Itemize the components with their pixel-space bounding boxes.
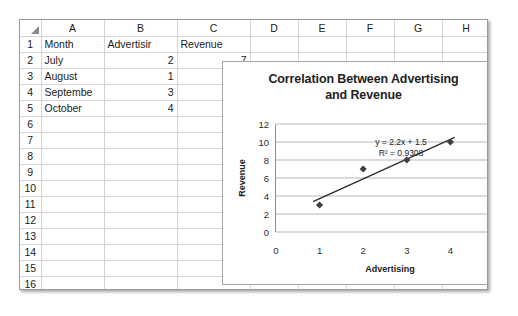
cell-a1[interactable]: Month (41, 36, 104, 52)
cell-b3[interactable]: 1 (104, 68, 177, 84)
cell-b16[interactable] (104, 276, 177, 290)
column-header-g[interactable]: G (394, 20, 442, 36)
cell-b15[interactable] (104, 260, 177, 276)
column-header-e[interactable]: E (298, 20, 346, 36)
row-header-13[interactable]: 13 (20, 228, 41, 244)
cell-b10[interactable] (104, 180, 177, 196)
row-header-5[interactable]: 5 (20, 100, 41, 116)
trendline-r-squared-label: R² = 0.9308 (379, 148, 424, 158)
y-tick-label: 2 (264, 209, 269, 220)
y-tick-label: 6 (264, 173, 269, 184)
row-header-15[interactable]: 15 (20, 260, 41, 276)
cell-b11[interactable] (104, 196, 177, 212)
cell-a5[interactable]: October (41, 100, 104, 116)
trendline-equation-label: y = 2.2x + 1.5 (375, 137, 427, 147)
select-all-corner[interactable] (20, 20, 41, 36)
y-tick-label: 8 (264, 155, 269, 166)
y-tick-label: 4 (264, 191, 269, 202)
x-tick-label: 0 (273, 245, 278, 256)
y-tick-label: 10 (258, 137, 269, 148)
row-header-2[interactable]: 2 (20, 52, 41, 68)
data-point-marker[interactable] (360, 165, 367, 172)
cell-e1[interactable] (298, 36, 346, 52)
cell-b14[interactable] (104, 244, 177, 260)
row-header-6[interactable]: 6 (20, 116, 41, 132)
cell-a15[interactable] (41, 260, 104, 276)
cell-c1[interactable]: Revenue (177, 36, 250, 52)
cell-b12[interactable] (104, 212, 177, 228)
column-header-c[interactable]: C (177, 20, 250, 36)
cell-b4[interactable]: 3 (104, 84, 177, 100)
chart-plot-wrapper: 024681012 012345 y = 2.2x + 1.5 R² = 0.9… (223, 114, 488, 286)
table-row: 1 Month Advertisir Revenue (20, 36, 488, 52)
x-tick-label: 3 (404, 245, 409, 256)
row-header-9[interactable]: 9 (20, 164, 41, 180)
cell-h1[interactable] (442, 36, 488, 52)
spreadsheet-window: A B C D E F G H I 1 Month Advertisir Rev… (19, 19, 488, 290)
row-header-7[interactable]: 7 (20, 132, 41, 148)
cell-b2[interactable]: 2 (104, 52, 177, 68)
cell-a16[interactable] (41, 276, 104, 290)
cell-a9[interactable] (41, 164, 104, 180)
scatter-plot-svg: 024681012 012345 y = 2.2x + 1.5 R² = 0.9… (223, 114, 488, 286)
cell-b13[interactable] (104, 228, 177, 244)
y-axis-tick-labels: 024681012 (258, 119, 269, 238)
column-header-h[interactable]: H (442, 20, 488, 36)
cell-b8[interactable] (104, 148, 177, 164)
chart-title-line-2: and Revenue (223, 87, 488, 103)
x-tick-label: 1 (317, 245, 322, 256)
y-tick-label: 12 (258, 119, 269, 130)
row-header-10[interactable]: 10 (20, 180, 41, 196)
cell-b7[interactable] (104, 132, 177, 148)
row-header-12[interactable]: 12 (20, 212, 41, 228)
cell-a2[interactable]: July (41, 52, 104, 68)
row-header-11[interactable]: 11 (20, 196, 41, 212)
cell-b6[interactable] (104, 116, 177, 132)
cell-a12[interactable] (41, 212, 104, 228)
row-header-8[interactable]: 8 (20, 148, 41, 164)
cell-a7[interactable] (41, 132, 104, 148)
column-header-f[interactable]: F (346, 20, 394, 36)
cell-d1[interactable] (250, 36, 298, 52)
column-header-d[interactable]: D (250, 20, 298, 36)
data-point-marker[interactable] (316, 201, 323, 208)
y-tick-label: 0 (264, 227, 269, 238)
cell-a3[interactable]: August (41, 68, 104, 84)
row-header-1[interactable]: 1 (20, 36, 41, 52)
x-axis-tick-labels: 012345 (273, 245, 488, 256)
select-all-triangle-icon (31, 26, 39, 34)
row-header-14[interactable]: 14 (20, 244, 41, 260)
chart-title-line-1: Correlation Between Advertising (223, 71, 488, 87)
row-header-16[interactable]: 16 (20, 276, 41, 290)
cell-a6[interactable] (41, 116, 104, 132)
embedded-chart-object[interactable]: Correlation Between Advertising and Reve… (222, 61, 488, 285)
cell-a8[interactable] (41, 148, 104, 164)
cell-a11[interactable] (41, 196, 104, 212)
cell-f1[interactable] (346, 36, 394, 52)
cell-b1[interactable]: Advertisir (104, 36, 177, 52)
y-axis-title: Revenue (237, 159, 247, 197)
column-header-a[interactable]: A (41, 20, 104, 36)
x-tick-label: 2 (361, 245, 366, 256)
cell-a13[interactable] (41, 228, 104, 244)
x-tick-label: 4 (448, 245, 453, 256)
column-header-b[interactable]: B (104, 20, 177, 36)
cell-b9[interactable] (104, 164, 177, 180)
chart-title: Correlation Between Advertising and Reve… (223, 62, 488, 103)
cell-a4[interactable]: Septembe (41, 84, 104, 100)
column-header-row: A B C D E F G H I (20, 20, 488, 36)
cell-a14[interactable] (41, 244, 104, 260)
row-header-4[interactable]: 4 (20, 84, 41, 100)
data-point-marker[interactable] (447, 138, 454, 145)
cell-a10[interactable] (41, 180, 104, 196)
cell-b5[interactable]: 4 (104, 100, 177, 116)
x-axis-title: Advertising (365, 264, 415, 274)
cell-g1[interactable] (394, 36, 442, 52)
row-header-3[interactable]: 3 (20, 68, 41, 84)
